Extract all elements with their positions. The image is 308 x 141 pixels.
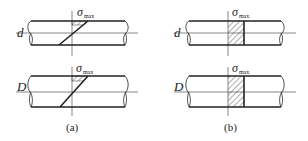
sigma-symbol: σ [76,61,82,75]
caption-a: (a) [66,122,78,133]
sigma-symbol: σ [77,5,83,19]
sigma-subscript: max [83,69,93,75]
sigma-symbol: σ [232,5,238,19]
stress-label-b-top: σmax [232,6,249,19]
diagram-canvas [0,0,308,141]
diameter-label-d-b: d [174,26,181,39]
stress-label-a-top: σmax [77,6,94,19]
sigma-symbol: σ [232,61,238,75]
diameter-label-D-a: D [17,80,26,93]
sigma-subscript: max [239,13,249,19]
sigma-subscript: max [239,69,249,75]
caption-b: (b) [224,122,237,133]
diameter-label-d-a: d [17,26,24,39]
stress-label-b-bottom: σmax [232,62,249,75]
shaft-stress-diagram: d σmax D σmax (a) d σmax D σmax (b) [0,0,308,141]
sigma-subscript: max [84,13,94,19]
stress-label-a-bottom: σmax [76,62,93,75]
diameter-label-D-b: D [174,80,183,93]
